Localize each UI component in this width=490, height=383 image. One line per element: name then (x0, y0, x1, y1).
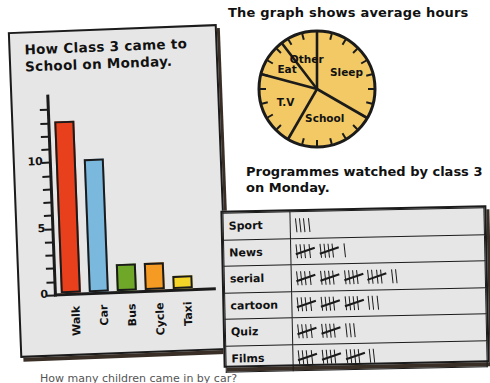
tally-singles (345, 323, 358, 337)
pie-label-tv: T.V (277, 96, 295, 108)
tally-group-of-five (320, 270, 337, 284)
tally-marks-serial (291, 261, 486, 292)
y-tick (41, 135, 49, 137)
x-axis-label-walk: Walk (69, 305, 83, 336)
y-tick (45, 241, 53, 243)
x-axis-label-bus: Bus (125, 303, 139, 326)
bar-chart-card: How Class 3 came to School on Monday. 05… (8, 24, 229, 358)
bar-chart-title: How Class 3 came to School on Monday. (24, 35, 207, 76)
tally-singles (344, 243, 348, 257)
pie-chart-title: The graph shows average hours (228, 5, 486, 20)
table-row: Films (226, 340, 487, 372)
y-tick (43, 202, 51, 204)
bar-chart-plot-area: 0510 (46, 89, 206, 297)
tally-category-sport: Sport (223, 212, 291, 240)
bar-series (51, 89, 209, 294)
y-tick (43, 188, 51, 190)
tally-group-of-five (368, 269, 385, 283)
bottom-caption: How many children came in by car? (40, 372, 300, 383)
bar-cycle (144, 263, 165, 290)
tally-group-of-five (297, 271, 314, 285)
tally-category-quiz: Quiz (225, 318, 293, 346)
tally-group-of-five (321, 297, 338, 311)
bar-car (84, 159, 109, 292)
tally-category-news: News (223, 238, 291, 266)
y-tick (41, 149, 49, 151)
tally-group-of-five (322, 323, 339, 337)
bar-taxi (172, 275, 192, 289)
pie-label-other: Other (290, 53, 324, 65)
tally-table-card: SportNewsserialcartoonQuizFilms (220, 205, 489, 368)
tally-marks-cartoon (292, 287, 487, 318)
tally-singles (370, 349, 379, 363)
tally-group-of-five (297, 297, 314, 311)
tally-singles (296, 218, 313, 232)
tally-group-of-five (345, 296, 362, 310)
tally-singles (368, 296, 381, 310)
tally-category-serial: serial (224, 265, 292, 293)
tally-group-of-five (346, 349, 363, 363)
tally-category-cartoon: cartoon (225, 291, 293, 319)
tally-marks-films (293, 340, 488, 371)
tally-group-of-five (322, 350, 339, 364)
pie-label-sleep: Sleep (330, 66, 363, 78)
y-axis-label-0: 0 (28, 288, 48, 302)
tally-group-of-five (320, 244, 337, 258)
tally-category-films: Films (226, 344, 294, 372)
tally-marks-news (290, 234, 485, 265)
bar-bus (116, 264, 137, 291)
y-tick (47, 295, 55, 297)
y-axis-label-5: 5 (25, 221, 45, 235)
x-axis-label-car: Car (97, 304, 111, 325)
y-tick (46, 268, 54, 270)
x-axis-label-taxi: Taxi (181, 301, 195, 326)
pie-chart-svg (254, 26, 380, 152)
y-tick (44, 228, 52, 230)
tally-group-of-five (298, 324, 315, 338)
tally-group-of-five (298, 350, 315, 364)
y-tick (42, 175, 50, 177)
y-tick (44, 215, 52, 217)
bar-walk (54, 120, 81, 293)
tally-singles (392, 269, 401, 283)
y-tick (45, 255, 53, 257)
tally-group-of-five (296, 244, 313, 258)
tally-marks-sport (290, 208, 485, 239)
tally-group-of-five (344, 270, 361, 284)
pie-label-eat: Eat (277, 63, 296, 75)
y-tick (40, 109, 48, 111)
tally-table: SportNewsserialcartoonQuizFilms (222, 207, 487, 372)
y-tick (40, 122, 48, 124)
pie-label-school: School (305, 112, 344, 124)
x-axis-label-cycle: Cycle (153, 302, 167, 335)
y-axis-label-10: 10 (23, 155, 43, 169)
y-tick (46, 281, 54, 283)
tally-table-title: Programmes watched by class 3 on Monday. (246, 164, 486, 196)
tally-marks-quiz (292, 314, 487, 345)
y-tick (42, 162, 50, 164)
pie-chart: SleepSchoolT.VEatOther (254, 26, 380, 152)
x-axis-labels: WalkCarBusCycleTaxi (59, 294, 221, 360)
